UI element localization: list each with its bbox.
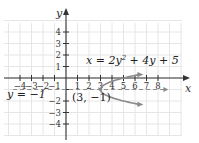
parabola-arrow-icon (137, 102, 143, 107)
y-tick-label: −4 (48, 119, 61, 129)
parabola-graph: −4−3−2−112345678−4−3−21234 y x x = 2y2 +… (0, 0, 199, 143)
y-tick-label: 1 (56, 62, 61, 72)
axis-of-symmetry-arrow-icon (163, 87, 168, 92)
vertex-label: (3, −1) (72, 91, 111, 104)
y-tick-label: −3 (48, 108, 61, 118)
y-axis-label: y (55, 7, 63, 20)
equation-rhs: + 4y + 5 (126, 54, 179, 67)
x-axis-label: x (185, 82, 192, 95)
x-axis-arrow-icon (183, 75, 190, 81)
y-tick-label: 3 (56, 39, 61, 49)
y-tick-label: 2 (56, 50, 61, 60)
y-tick-label: −2 (48, 96, 61, 106)
parabola-arrow-icon (137, 72, 143, 77)
equation-label: x = 2y2 + 4y + 5 (86, 54, 179, 67)
axis-of-symmetry-label: y = −1 (6, 88, 46, 101)
y-tick-label: 4 (56, 27, 61, 37)
equation-lhs: x = 2y (86, 54, 122, 67)
y-axis-arrow-icon (63, 8, 69, 15)
